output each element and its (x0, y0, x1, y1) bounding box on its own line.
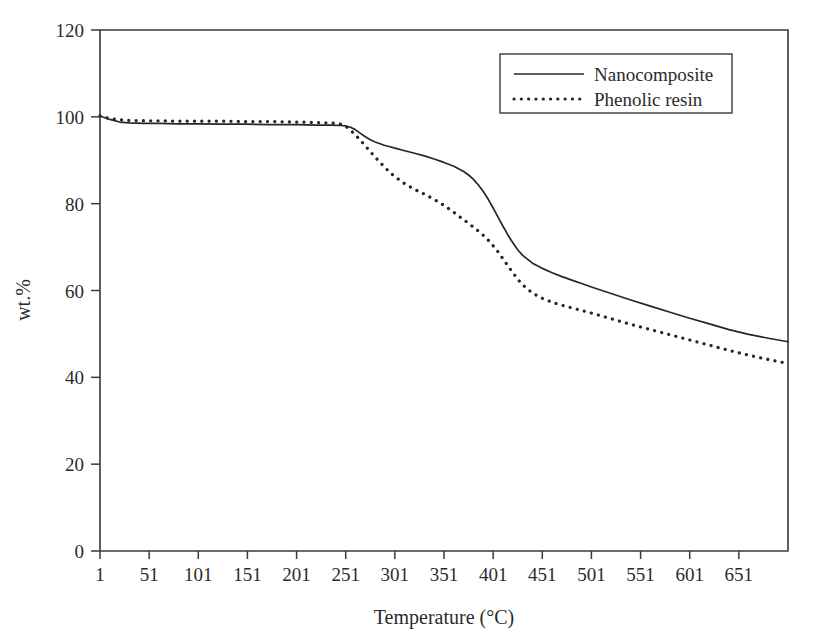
x-tick-label: 401 (479, 564, 508, 585)
y-tick-label: 120 (56, 20, 85, 41)
x-axis-tick-labels: 151101151201251301351401451501551601651 (95, 564, 753, 585)
x-axis-title: Temperature (°C) (374, 606, 514, 629)
x-tick-label: 601 (675, 564, 704, 585)
y-tick-label: 0 (75, 541, 85, 562)
legend-label-nanocomposite: Nanocomposite (594, 64, 713, 85)
y-tick-label: 40 (65, 367, 84, 388)
series-nanocomposite (100, 116, 788, 342)
x-tick-label: 451 (528, 564, 557, 585)
data-series-group (100, 116, 788, 363)
y-axis-title: wt.% (12, 279, 34, 321)
y-tick-label: 100 (56, 107, 85, 128)
y-tick-label: 60 (65, 281, 84, 302)
series-phenolic-resin (100, 116, 788, 363)
x-tick-label: 651 (725, 564, 754, 585)
chart-canvas: 151101151201251301351401451501551601651 … (0, 0, 813, 639)
y-tick-label: 20 (65, 454, 84, 475)
x-tick-label: 301 (381, 564, 410, 585)
legend-label-phenolic-resin: Phenolic resin (594, 89, 703, 110)
x-tick-label: 551 (626, 564, 655, 585)
y-axis-tick-labels: 020406080100120 (56, 20, 85, 562)
x-tick-label: 101 (184, 564, 213, 585)
x-tick-label: 201 (282, 564, 311, 585)
x-tick-label: 351 (430, 564, 459, 585)
x-tick-label: 501 (577, 564, 606, 585)
x-tick-label: 251 (331, 564, 360, 585)
x-tick-label: 1 (95, 564, 105, 585)
chart-legend: Nanocomposite Phenolic resin (500, 54, 732, 113)
x-tick-label: 51 (140, 564, 159, 585)
y-tick-label: 80 (65, 194, 84, 215)
x-axis-ticks (100, 551, 739, 559)
y-axis-ticks (91, 30, 100, 551)
tga-chart-figure: 151101151201251301351401451501551601651 … (0, 0, 813, 639)
x-tick-label: 151 (233, 564, 262, 585)
